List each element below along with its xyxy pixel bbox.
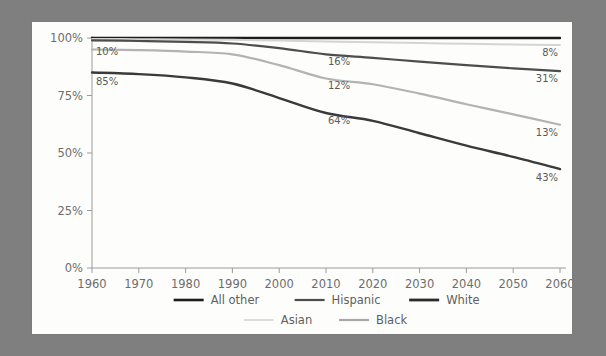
data-label: 12% xyxy=(328,80,350,91)
y-tick-label: 0% xyxy=(65,261,83,275)
x-tick-label: 2020 xyxy=(358,277,387,291)
chart-legend: All otherHispanicWhiteAsianBlack xyxy=(174,293,480,327)
data-label: 16% xyxy=(328,56,350,67)
x-tick-label: 2050 xyxy=(499,277,528,291)
x-axis-ticks: 1960197019801990200020102020203020402050… xyxy=(77,268,572,291)
chart-plot-area: 0%25%50%75%100% 196019701980199020002010… xyxy=(32,22,572,334)
x-tick-label: 2040 xyxy=(452,277,481,291)
y-axis-ticks: 0%25%50%75%100% xyxy=(50,31,92,275)
legend-label-hispanic: Hispanic xyxy=(332,293,381,307)
data-label: 64% xyxy=(328,115,350,126)
x-tick-label: 1990 xyxy=(218,277,247,291)
x-tick-label: 1970 xyxy=(124,277,153,291)
data-label: 10% xyxy=(96,46,118,57)
x-tick-label: 2000 xyxy=(265,277,294,291)
x-tick-label: 1960 xyxy=(77,277,106,291)
series-line-white xyxy=(92,73,560,170)
x-tick-label: 1980 xyxy=(171,277,200,291)
legend-label-white: White xyxy=(446,293,479,307)
y-tick-label: 25% xyxy=(57,204,83,218)
legend-label-asian: Asian xyxy=(281,313,312,327)
data-label: 13% xyxy=(536,127,558,138)
data-label: 31% xyxy=(536,73,558,84)
series-group xyxy=(92,38,560,169)
legend-label-all-other: All other xyxy=(211,293,260,307)
data-label: 8% xyxy=(542,47,558,58)
x-tick-label: 2010 xyxy=(311,277,340,291)
y-tick-label: 50% xyxy=(57,146,83,160)
x-tick-label: 2060 xyxy=(545,277,572,291)
x-tick-label: 2030 xyxy=(405,277,434,291)
chart-card: 0%25%50%75%100% 196019701980199020002010… xyxy=(32,22,572,334)
y-tick-label: 75% xyxy=(57,89,83,103)
data-label: 43% xyxy=(536,172,558,183)
y-tick-label: 100% xyxy=(50,31,83,45)
line-chart: 0%25%50%75%100% 196019701980199020002010… xyxy=(32,22,572,334)
legend-label-black: Black xyxy=(376,313,407,327)
data-label: 85% xyxy=(96,76,118,87)
